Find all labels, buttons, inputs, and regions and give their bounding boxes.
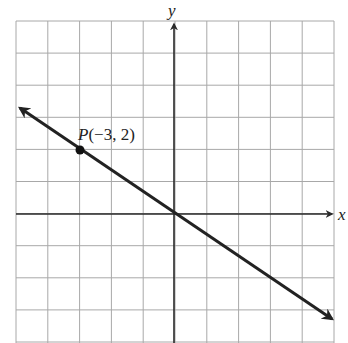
point-p-name: P: [77, 125, 88, 144]
y-axis-label: y: [166, 1, 176, 20]
point-p: [76, 146, 85, 155]
point-p-coords: (−3, 2): [88, 125, 134, 144]
x-axis-label: x: [337, 205, 346, 224]
coordinate-plane: x y P(−3, 2): [0, 0, 348, 343]
point-p-label: P(−3, 2): [77, 125, 135, 144]
grid-lines: [16, 21, 334, 343]
